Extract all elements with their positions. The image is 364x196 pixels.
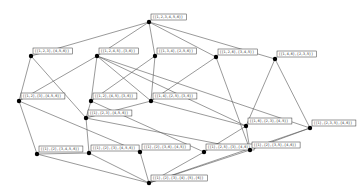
node-label-b2: {{1,2},{4,5},{3,6}} xyxy=(93,93,137,99)
node-top xyxy=(147,20,151,24)
node-label-a1: {{1,2,3},{4,5,6}} xyxy=(33,48,73,54)
edge-b1-d1 xyxy=(19,101,37,154)
node-label-a3: {{1,3,4},{2,5,6}} xyxy=(157,48,197,54)
node-c2 xyxy=(244,124,248,128)
node-label-top: {{1,2,3,4,5,6}} xyxy=(151,14,187,20)
node-a5 xyxy=(273,57,277,61)
node-label-d1: {{1},{2},{3,4,5,6}} xyxy=(39,146,83,152)
node-label-text: {{1,2,4,5},{3,6}} xyxy=(101,49,136,53)
edge-a5-c2 xyxy=(246,59,275,126)
node-d1 xyxy=(35,152,39,156)
node-label-c2: {{1,6},{2,3},{4,5}} xyxy=(248,118,292,124)
node-label-a4: {{1,2,6},{3,4,5}} xyxy=(218,49,258,55)
node-label-c3: {{1},{2,3,5},{4,6}} xyxy=(312,120,356,126)
node-label-text: {{1},{2,3},{4,5,6}} xyxy=(90,111,129,115)
node-label-d2: {{1},{2},{3},{4,5,6}} xyxy=(91,145,139,151)
node-label-bottom: {{1},{2},{3},{4},{5},{6}} xyxy=(151,175,208,181)
node-label-d3: {{1},{2},{3,6},{4,5}} xyxy=(142,144,190,150)
node-label-text: {{1},{2},{3},{4,5,6}} xyxy=(93,146,136,150)
node-label-text: {{1,4,6},{2,3,5}} xyxy=(279,52,314,56)
node-label-b1: {{1,2},{3},{4,5,6}} xyxy=(21,93,65,99)
node-label-d5: {{1},{2},{3,5},{4,6}} xyxy=(252,142,300,148)
node-c3 xyxy=(308,126,312,130)
node-a1 xyxy=(29,54,33,58)
node-label-text: {{1,6},{2,3},{4,5}} xyxy=(250,119,289,123)
node-d5 xyxy=(248,148,252,152)
node-label-text: {{1},{2,5},{3},{4,6}} xyxy=(208,145,251,149)
edge-layer xyxy=(19,22,310,183)
node-label-a5: {{1,4,6},{2,3,5}} xyxy=(277,51,317,57)
edge-a2-c3 xyxy=(97,56,310,128)
node-label-text: {{1,2},{4,5},{3,6}} xyxy=(95,94,134,98)
edge-a1-c1 xyxy=(31,56,86,118)
node-label-text: {{1},{2},{3,6},{4,5}} xyxy=(144,145,187,149)
node-bottom xyxy=(147,181,151,185)
node-b3 xyxy=(149,99,153,103)
edge-d3-bottom xyxy=(140,152,149,183)
node-label-text: {{1},{2,3,5},{4,6}} xyxy=(314,121,353,125)
node-d3 xyxy=(138,150,142,154)
edge-d1-bottom xyxy=(37,154,149,183)
edge-d2-d1 xyxy=(37,153,89,154)
edge-b3-c2 xyxy=(151,101,246,126)
node-c1 xyxy=(84,116,88,120)
node-label-text: {{1,2},{3},{4,5,6}} xyxy=(23,94,62,98)
node-label-a2: {{1,2,4,5},{3,6}} xyxy=(99,48,139,54)
node-label-text: {{1},{2},{3,5},{4,6}} xyxy=(254,143,297,147)
node-label-d4: {{1},{2,5},{3},{4,6}} xyxy=(206,144,254,150)
node-label-b3: {{1,4},{2,5},{3,6}} xyxy=(153,93,197,99)
node-b1 xyxy=(17,99,21,103)
node-label-text: {{1},{2},{3},{4},{5},{6}} xyxy=(153,176,204,180)
edge-a4-d5 xyxy=(216,57,250,150)
hasse-diagram: {{1,2,3,4,5,6}}{{1,2,3},{4,5,6}}{{1,2,4,… xyxy=(0,0,364,196)
label-layer: {{1,2,3,4,5,6}}{{1,2,3},{4,5,6}}{{1,2,4,… xyxy=(21,14,356,181)
node-label-c1: {{1},{2,3},{4,5,6}} xyxy=(88,110,132,116)
node-label-text: {{1,2,6},{3,4,5}} xyxy=(220,50,255,54)
node-d4 xyxy=(202,150,206,154)
edge-top-a3 xyxy=(149,22,155,56)
node-b2 xyxy=(89,99,93,103)
node-d2 xyxy=(87,151,91,155)
node-label-text: {{1,3,4},{2,5,6}} xyxy=(159,49,194,53)
node-a2 xyxy=(95,54,99,58)
node-label-text: {{1,2,3},{4,5,6}} xyxy=(35,49,70,53)
node-a3 xyxy=(153,54,157,58)
edge-c1-d2 xyxy=(86,118,89,153)
node-label-text: {{1,4},{2,5},{3,6}} xyxy=(155,94,194,98)
node-a4 xyxy=(214,55,218,59)
edge-d2-bottom xyxy=(89,153,149,183)
node-label-text: {{1,2,3,4,5,6}} xyxy=(153,15,184,19)
node-label-text: {{1},{2},{3,4,5,6}} xyxy=(41,147,80,151)
